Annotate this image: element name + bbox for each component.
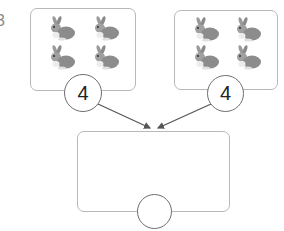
left-count-circle: 4 (64, 74, 102, 112)
total-answer-circle[interactable] (137, 194, 172, 229)
arrow-right (158, 104, 211, 128)
arrow-left (98, 104, 150, 128)
arrows (0, 0, 284, 231)
right-count-circle: 4 (207, 75, 244, 112)
